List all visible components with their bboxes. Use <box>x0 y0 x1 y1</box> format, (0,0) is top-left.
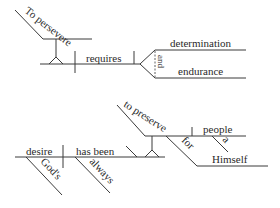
word-endurance: endurance <box>178 65 223 77</box>
sentence-diagram: To persevere requires and determination … <box>0 0 280 208</box>
compound-object: and determination endurance <box>140 37 246 78</box>
stilt-pedestal-2 <box>145 150 159 157</box>
infinitive-phrase-subject: To persevere <box>15 4 92 64</box>
word-gods: God's <box>39 155 65 182</box>
word-to-preserve: to preserve <box>122 98 169 135</box>
complement-slash <box>126 146 137 157</box>
sentence-1: To persevere requires and determination … <box>15 4 246 78</box>
word-requires: requires <box>86 52 121 64</box>
fork-upper <box>140 50 155 64</box>
word-and: and <box>156 55 166 68</box>
sentence-2: desire has been God's always to preserve… <box>15 98 268 195</box>
stilt-pedestal <box>49 57 63 64</box>
word-himself: Himself <box>212 153 248 165</box>
word-determination: determination <box>170 37 232 49</box>
infinitive-phrase-complement: to preserve people a for Himself <box>117 98 268 166</box>
fork-lower <box>140 64 155 78</box>
word-for: for <box>180 134 198 152</box>
word-always: always <box>88 155 118 186</box>
